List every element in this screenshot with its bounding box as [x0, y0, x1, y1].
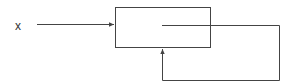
system-block [116, 8, 211, 48]
diagram-canvas [0, 0, 292, 84]
feedback-diagram: x [0, 0, 292, 84]
feedback-loop-arrow [162, 26, 280, 81]
